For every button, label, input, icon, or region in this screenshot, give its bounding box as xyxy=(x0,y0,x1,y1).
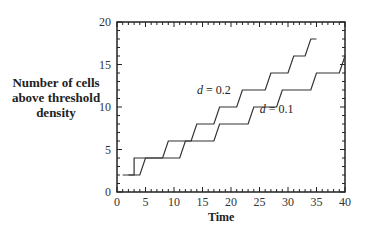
series-line-1 xyxy=(123,56,345,175)
y-tick-label: 5 xyxy=(105,143,111,157)
y-tick-label: 0 xyxy=(105,185,111,199)
chart: Number of cells above threshold density … xyxy=(0,0,369,234)
y-tick-label: 20 xyxy=(99,15,111,29)
x-tick-label: 40 xyxy=(339,195,351,209)
plot-area: 051015202530354005101520d = 0.2d = 0.1 xyxy=(0,0,369,234)
x-tick-label: 15 xyxy=(197,195,209,209)
x-tick-label: 30 xyxy=(282,195,294,209)
x-tick-label: 20 xyxy=(225,195,237,209)
x-tick-label: 5 xyxy=(143,195,149,209)
x-tick-label: 10 xyxy=(168,195,180,209)
y-tick-label: 10 xyxy=(99,100,111,114)
series-annotation: d = 0.2 xyxy=(197,83,231,97)
y-tick-label: 15 xyxy=(99,58,111,72)
x-tick-label: 35 xyxy=(311,195,323,209)
x-tick-label: 0 xyxy=(114,195,120,209)
x-tick-label: 25 xyxy=(254,195,266,209)
series-annotation: d = 0.1 xyxy=(260,102,294,116)
